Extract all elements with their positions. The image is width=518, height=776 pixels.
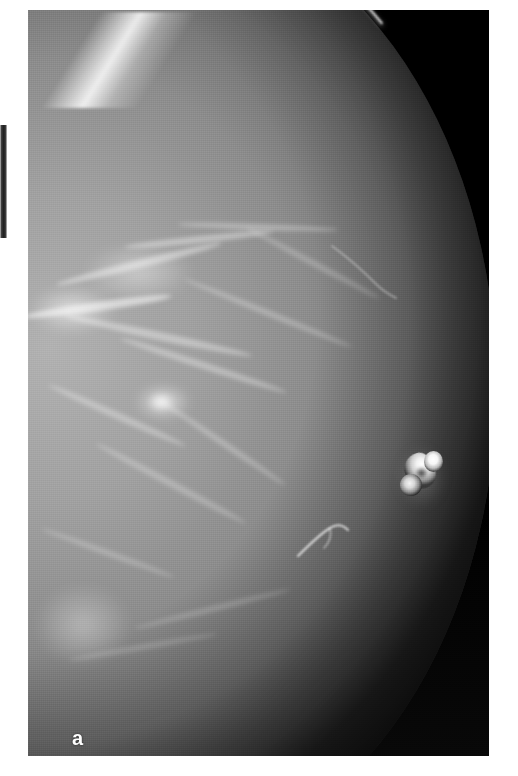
- left-margin-dark-bar: [0, 125, 7, 238]
- figure-root: a: [0, 0, 518, 776]
- skin-line: [28, 10, 489, 756]
- mammogram-image-panel: a: [28, 10, 489, 756]
- nipple-tip: [424, 451, 443, 472]
- skin-line-highlight: [34, 12, 230, 108]
- panel-label: a: [72, 728, 83, 748]
